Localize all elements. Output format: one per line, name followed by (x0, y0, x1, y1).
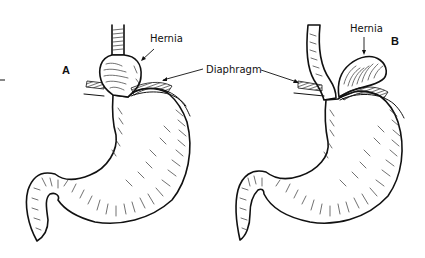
hernia-label-a: Hernia (150, 33, 183, 44)
panel-label-a: A (62, 64, 70, 76)
hernia-label-b: Hernia (350, 23, 383, 34)
diaphragm-leader-a (163, 69, 203, 80)
diaphragm-label: Diaphragm (206, 64, 262, 75)
panel-a: A Hernia (26, 25, 190, 241)
hiatal-hernia-diagram: A Hernia Diaphragm (0, 0, 425, 258)
panel-b: Hernia B (236, 23, 404, 240)
diaphragm-leader-b (261, 70, 297, 82)
panel-label-b: B (391, 35, 399, 47)
stomach-b (236, 91, 402, 240)
hernia-b-arrowhead (362, 50, 366, 55)
diaphragm-callout: Diaphragm (162, 64, 299, 83)
stomach-a (26, 89, 189, 241)
